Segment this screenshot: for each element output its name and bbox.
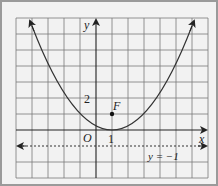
grid xyxy=(16,18,208,178)
directrix-label: y = −1 xyxy=(147,150,179,162)
origin-label: O xyxy=(83,131,92,145)
parabola-diagram: y x O 1 2 F y = −1 xyxy=(0,0,218,186)
focus-label: F xyxy=(112,99,121,113)
x-axis-label: x xyxy=(198,132,205,146)
x-tick-1: 1 xyxy=(108,132,114,146)
y-tick-2: 2 xyxy=(84,92,90,106)
y-axis-label: y xyxy=(83,18,90,32)
